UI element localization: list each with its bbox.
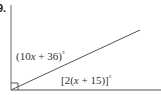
upper-angle-label: (10x + 36)° bbox=[16, 50, 65, 62]
upper-angle-prefix: (10 bbox=[16, 50, 31, 62]
upper-angle-suffix: + 36) bbox=[36, 50, 62, 62]
upper-angle-degree: ° bbox=[62, 50, 65, 58]
lower-angle-suffix: + 15)] bbox=[79, 74, 109, 86]
lower-angle-degree: ° bbox=[109, 74, 112, 82]
lower-angle-label: [2(x + 15)]° bbox=[61, 74, 112, 86]
problem-number: 9. bbox=[0, 2, 6, 14]
lower-angle-prefix: [2( bbox=[61, 74, 74, 86]
angle-diagram: 9. (10x + 36)° [2(x + 15)]° bbox=[0, 0, 161, 95]
right-angle-marker bbox=[11, 83, 18, 90]
